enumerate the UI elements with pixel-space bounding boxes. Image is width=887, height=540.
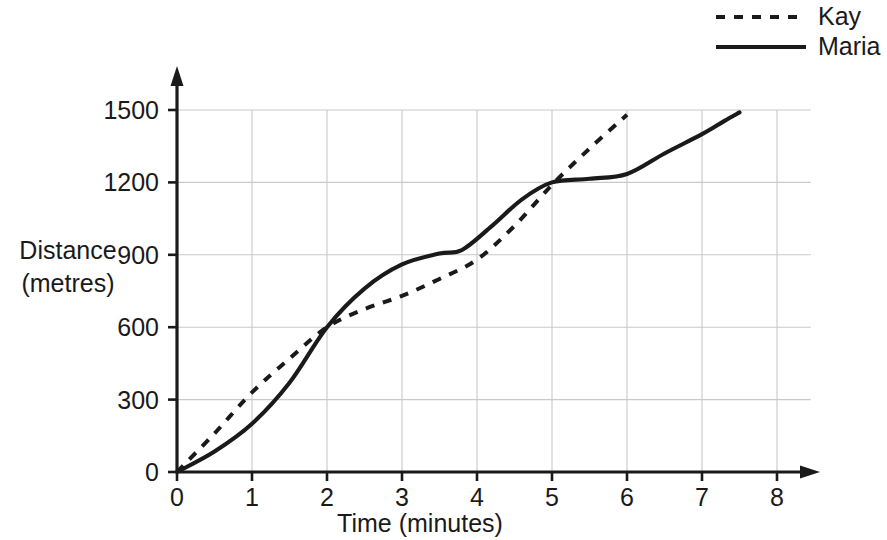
y-axis-title-line2: (metres): [21, 269, 114, 297]
y-tick-label: 1500: [103, 96, 159, 124]
x-tick-label: 8: [770, 483, 784, 511]
x-axis-title: Time (minutes): [337, 509, 503, 537]
x-tick-label: 6: [620, 483, 634, 511]
chart-canvas: 030060090012001500 012345678 Time (minut…: [0, 0, 887, 540]
legend-label-maria: Maria: [818, 32, 881, 60]
x-axis-arrowhead: [800, 466, 820, 479]
y-tick-label: 300: [117, 386, 159, 414]
y-tick-label: 1200: [103, 168, 159, 196]
gridlines: [177, 110, 811, 472]
chart-legend: Kay Maria: [716, 2, 881, 60]
distance-time-chart: 030060090012001500 012345678 Time (minut…: [0, 0, 887, 540]
x-axis-tick-labels: 012345678: [170, 483, 784, 511]
y-axis-title-line1: Distance: [19, 236, 116, 264]
legend-label-kay: Kay: [818, 2, 862, 30]
x-tick-label: 5: [545, 483, 559, 511]
x-tick-label: 0: [170, 483, 184, 511]
x-tick-label: 4: [470, 483, 484, 511]
y-tick-label: 900: [117, 241, 159, 269]
x-tick-label: 1: [245, 483, 259, 511]
x-tick-label: 3: [395, 483, 409, 511]
y-tick-label: 0: [145, 458, 159, 486]
x-tick-label: 7: [695, 483, 709, 511]
series-line-maria: [177, 112, 740, 472]
x-tick-label: 2: [320, 483, 334, 511]
y-tick-label: 600: [117, 313, 159, 341]
y-axis-arrowhead: [171, 66, 184, 86]
